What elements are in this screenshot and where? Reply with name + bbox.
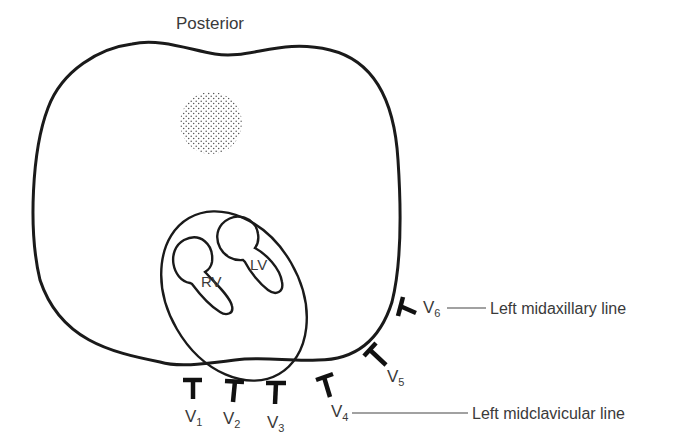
v2-electrode-icon <box>225 381 244 402</box>
v2-label: V2 <box>223 409 240 430</box>
chest-outline <box>33 42 400 364</box>
v6-electrode-icon <box>398 297 416 316</box>
lv-label: LV <box>250 256 267 273</box>
midclavicular-label: Left midclavicular line <box>472 405 625 422</box>
v1-label: V1 <box>185 407 202 428</box>
pericardium-outline <box>132 185 336 407</box>
posterior-label: Posterior <box>176 14 244 33</box>
left-ventricle-outline <box>217 217 282 293</box>
v3-electrode-icon <box>266 383 286 404</box>
midaxillary-label: Left midaxillary line <box>490 300 626 317</box>
v3-label: V3 <box>267 413 284 434</box>
v4-electrode-icon <box>316 374 333 397</box>
v4-label: V4 <box>331 402 348 423</box>
chest-cross-section-diagram: Posterior RV LV V1 V2 <box>0 0 678 448</box>
v5-label: V5 <box>387 367 404 388</box>
v1-electrode-icon <box>183 380 202 399</box>
v5-electrode-icon <box>364 343 386 365</box>
v6-label: V6 <box>423 298 440 319</box>
rv-label: RV <box>201 273 222 290</box>
stippled-circle-icon <box>180 92 242 154</box>
